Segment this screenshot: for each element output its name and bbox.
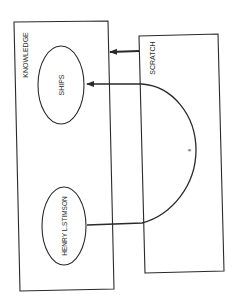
- stimson-node: HENRY L.STIMSON: [42, 187, 86, 265]
- scratch-box: SCRATCH: [139, 34, 224, 273]
- scratch-label: SCRATCH: [149, 41, 156, 74]
- stimson-label: HENRY L.STIMSON: [61, 196, 68, 256]
- ships-label: SHIPS: [58, 74, 65, 95]
- semantic-network-diagram: KNOWLEDGE SCRATCH SHIPS HENRY L.STIMSON …: [0, 0, 236, 308]
- scratch-to-knowledge-arrow: [110, 51, 139, 52]
- arc-label: e: [186, 148, 192, 151]
- knowledge-label: KNOWLEDGE: [22, 32, 29, 78]
- ships-node: SHIPS: [38, 46, 84, 124]
